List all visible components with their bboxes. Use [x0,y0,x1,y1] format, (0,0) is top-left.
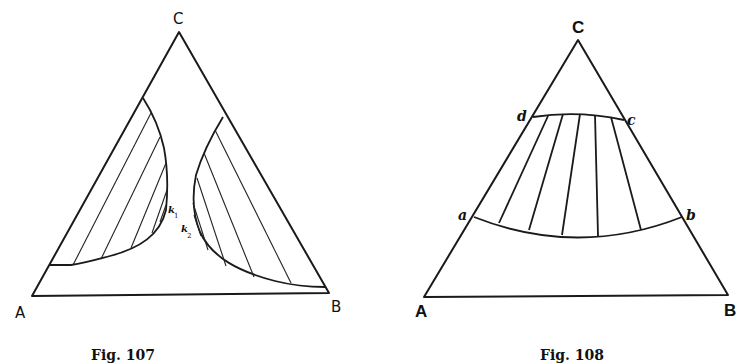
fig108-point-b: b [686,207,696,223]
fig107-caption: Fig. 107 [91,347,155,363]
fig107-left-tie-lines [73,113,167,265]
fig108-point-a: a [458,207,467,223]
svg-text:1: 1 [174,212,178,220]
fig108-caption: Fig. 108 [540,347,604,363]
fig108-curve-ab [474,217,682,238]
fig108-vertex-b: B [724,301,736,320]
fig108-vertex-a: A [415,302,427,321]
fig107-right-binodal-curve [194,117,325,287]
fig108-triangle [424,40,728,297]
fig108-vertex-c: C [572,18,584,37]
figure-107: C A B k 1 k 2 Fig. 107 [15,10,341,363]
figure-108: d c a b C A B Fig. 108 [415,18,736,363]
fig107-vertex-c: C [173,10,183,28]
fig107-vertex-b: B [331,298,341,316]
fig108-tie-lines [499,114,641,236]
fig107-plait-point-k2: k 2 [181,223,191,240]
svg-text:2: 2 [187,232,191,240]
fig107-left-binodal-curve [50,98,167,265]
fig107-vertex-a: A [15,304,26,322]
fig107-right-tie-lines [193,130,291,283]
fig108-point-d: d [517,108,527,124]
fig107-triangle [32,32,329,296]
fig108-point-c: c [627,112,636,128]
fig107-plait-point-k1: k 1 [168,204,178,220]
figures-canvas: C A B k 1 k 2 Fig. 107 d c [0,0,750,364]
